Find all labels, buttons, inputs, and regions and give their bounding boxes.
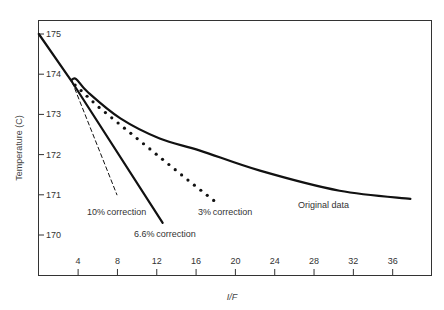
series-3-correction-dot <box>193 184 196 187</box>
x-tick-label: 16 <box>191 256 201 266</box>
x-tick-label: 36 <box>388 256 398 266</box>
x-tick-label: 8 <box>115 256 120 266</box>
series-3-correction-dot <box>97 106 100 109</box>
x-tick-label: 24 <box>270 256 280 266</box>
y-tick-label: 171 <box>46 190 61 200</box>
series-3-correction-dot <box>136 137 139 140</box>
series-3-correction-dot <box>117 121 120 124</box>
y-tick-label: 170 <box>46 230 61 240</box>
series-3-correction-dot <box>104 111 107 114</box>
x-tick-label: 4 <box>76 256 81 266</box>
series-3-correction-dot <box>180 173 183 176</box>
series-3-correction-dot <box>155 153 158 156</box>
annotation-3-correction: 3% correction <box>198 207 252 217</box>
x-tick-label: 20 <box>230 256 240 266</box>
x-axis-title: I/F <box>227 292 238 302</box>
annotation-10-correction: 10% correction <box>87 207 146 217</box>
annotation-6-6-correction: 6.6% correction <box>134 229 196 239</box>
series-3-correction-dot <box>85 95 88 98</box>
series-3-correction-dot <box>174 168 177 171</box>
series-original-data <box>71 78 410 198</box>
series-3-correction-dot <box>161 158 164 161</box>
y-tick-label: 174 <box>46 69 61 79</box>
y-tick-label: 173 <box>46 109 61 119</box>
x-tick-label: 28 <box>309 256 319 266</box>
plot-frame <box>39 21 432 276</box>
series-3-correction-dot <box>142 142 145 145</box>
annotation-original-data: Original data <box>298 200 349 210</box>
series-3-correction-dot <box>206 194 209 197</box>
y-tick-label: 175 <box>46 29 61 39</box>
y-axis-title: Temperature (C) <box>14 115 24 181</box>
chart: 175174173172171170 4812162024283236 Temp… <box>0 0 444 310</box>
series-3-correction-dot <box>91 100 94 103</box>
series-3-correction-dot <box>129 132 132 135</box>
series-3-correction-dot <box>123 127 126 130</box>
x-tick-label: 12 <box>152 256 162 266</box>
x-axis-ticks: 4812162024283236 <box>76 256 398 276</box>
series-3-correction-dot <box>186 178 189 181</box>
y-tick-label: 172 <box>46 150 61 160</box>
series-layer <box>39 34 411 223</box>
series-3-correction-dot <box>110 116 113 119</box>
series-3-correction-dot <box>79 89 82 92</box>
series-3-correction-dot <box>167 163 170 166</box>
series-3-correction-dot <box>212 199 215 202</box>
x-tick-label: 32 <box>348 256 358 266</box>
series-3-correction-dot <box>148 147 151 150</box>
series-3-correction-dot <box>199 189 202 192</box>
